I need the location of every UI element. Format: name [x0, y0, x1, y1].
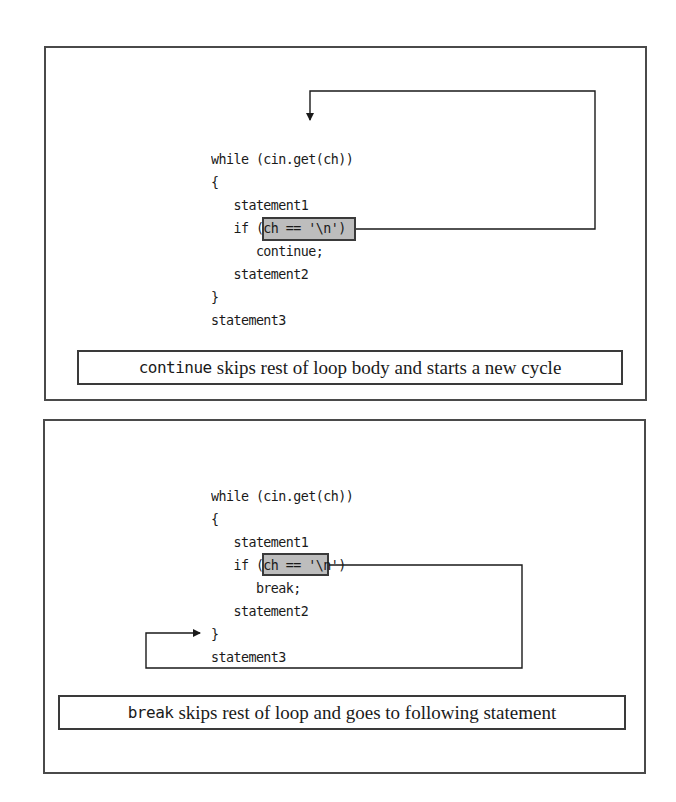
- continue-arrow-icon: [310, 91, 595, 229]
- break-arrow-icon: [146, 565, 522, 668]
- flow-arrows: [0, 0, 676, 802]
